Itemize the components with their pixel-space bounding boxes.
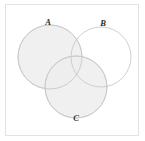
venn-diagram-figure: A B C xyxy=(0,0,145,141)
venn-label-a: A xyxy=(44,17,51,27)
venn-label-c: C xyxy=(73,113,79,123)
venn-label-b: B xyxy=(99,18,106,28)
venn-circle-b xyxy=(71,27,131,87)
venn-diagram-canvas: A B C xyxy=(0,0,145,141)
